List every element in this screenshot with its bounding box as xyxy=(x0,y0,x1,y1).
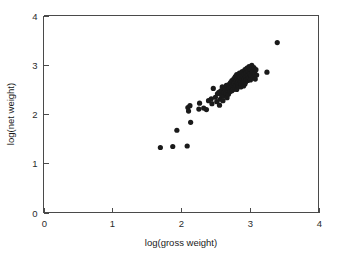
y-tick-label: 4 xyxy=(32,11,37,22)
x-axis-title: log(gross weight) xyxy=(145,237,217,248)
data-point xyxy=(187,103,192,108)
x-axis-ticks: 01234 xyxy=(42,208,322,229)
y-tick-label: 1 xyxy=(32,158,37,169)
data-point xyxy=(211,86,216,91)
data-point xyxy=(204,107,209,112)
data-point xyxy=(197,101,202,106)
x-tick-label: 4 xyxy=(317,218,322,229)
data-point xyxy=(174,128,179,133)
x-tick-label: 3 xyxy=(248,218,253,229)
y-tick-label: 0 xyxy=(32,208,37,219)
data-point-series xyxy=(158,40,280,150)
x-tick-label: 2 xyxy=(179,218,184,229)
x-tick-label: 0 xyxy=(42,218,47,229)
data-point xyxy=(185,143,190,148)
data-point xyxy=(188,120,193,125)
data-point xyxy=(217,103,222,108)
plot-canvas: 01234 01234 log(gross weight) log(net we… xyxy=(0,0,338,259)
y-tick-label: 3 xyxy=(32,60,37,71)
y-axis-title: log(net weight) xyxy=(5,83,16,145)
data-point xyxy=(264,70,269,75)
y-tick-label: 2 xyxy=(32,109,37,120)
data-point xyxy=(196,106,201,111)
data-point xyxy=(253,67,258,72)
data-point xyxy=(186,108,191,113)
data-point xyxy=(254,72,259,77)
data-point xyxy=(170,144,175,149)
data-point xyxy=(158,145,163,150)
data-point xyxy=(209,101,214,106)
data-point xyxy=(275,40,280,45)
x-tick-label: 1 xyxy=(110,218,115,229)
scatter-plot-figure: 01234 01234 log(gross weight) log(net we… xyxy=(0,0,338,259)
y-axis-ticks: 01234 xyxy=(32,11,48,219)
